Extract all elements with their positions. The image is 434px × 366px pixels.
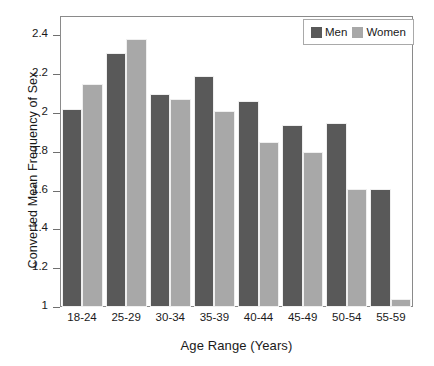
x-axis-title: Age Range (Years) bbox=[60, 338, 413, 353]
x-axis-label-55-59: 55-59 bbox=[369, 311, 413, 323]
bar-men-25-29 bbox=[106, 53, 127, 307]
x-axis-label-18-24: 18-24 bbox=[60, 311, 104, 323]
bar-women-50-54 bbox=[347, 189, 368, 307]
legend-label-men: Men bbox=[325, 26, 347, 38]
legend-entry-men: Men bbox=[311, 26, 347, 38]
bar-men-45-49 bbox=[282, 125, 303, 307]
bar-women-25-29 bbox=[126, 39, 147, 307]
y-axis-tick-mark bbox=[53, 74, 60, 75]
y-axis-tick-label: 1.4 bbox=[32, 221, 48, 233]
bar-women-30-34 bbox=[170, 99, 191, 307]
y-axis-tick-mark bbox=[53, 307, 60, 308]
y-axis-tick: 1 bbox=[0, 307, 60, 308]
x-axis-label-35-39: 35-39 bbox=[192, 311, 236, 323]
y-axis-tick-label: 1.6 bbox=[32, 183, 48, 195]
bar-women-55-59 bbox=[391, 299, 412, 307]
y-axis-tick-mark bbox=[53, 191, 60, 192]
bar-men-50-54 bbox=[326, 123, 347, 307]
y-axis-tick-label: 1.8 bbox=[32, 144, 48, 156]
bar-men-18-24 bbox=[62, 109, 83, 307]
legend-swatch-women-icon bbox=[352, 27, 363, 38]
x-axis-label-30-34: 30-34 bbox=[148, 311, 192, 323]
y-axis-tick: 1.4 bbox=[0, 229, 60, 230]
y-axis-tick-mark bbox=[53, 35, 60, 36]
y-axis-tick-mark bbox=[53, 229, 60, 230]
y-axis-tick: 1.2 bbox=[0, 268, 60, 269]
bar-women-18-24 bbox=[82, 84, 103, 307]
y-axis-tick: 1.8 bbox=[0, 152, 60, 153]
x-axis-label-25-29: 25-29 bbox=[104, 311, 148, 323]
y-axis-tick-label: 1.2 bbox=[32, 260, 48, 272]
legend-swatch-men-icon bbox=[311, 27, 322, 38]
y-axis-tick-mark bbox=[53, 268, 60, 269]
bar-men-35-39 bbox=[194, 76, 215, 307]
y-axis-tick-label: 2.2 bbox=[32, 66, 48, 78]
y-axis-title: Converted Mean Frequency of Sex bbox=[22, 20, 44, 320]
legend-entry-women: Women bbox=[352, 26, 405, 38]
bar-chart-figure: Converted Mean Frequency of Sex 11.21.41… bbox=[0, 0, 434, 366]
y-axis-tick-label: 1 bbox=[42, 299, 48, 311]
bar-women-40-44 bbox=[259, 142, 280, 307]
bar-men-55-59 bbox=[370, 189, 391, 307]
y-axis-tick-mark bbox=[53, 152, 60, 153]
bar-women-35-39 bbox=[214, 111, 235, 307]
chart-legend: Men Women bbox=[303, 19, 414, 45]
bar-men-40-44 bbox=[238, 101, 259, 307]
y-axis-tick: 1.6 bbox=[0, 191, 60, 192]
x-axis-label-40-44: 40-44 bbox=[237, 311, 281, 323]
legend-label-women: Women bbox=[366, 26, 405, 38]
bar-men-30-34 bbox=[150, 94, 171, 307]
y-axis-tick: 2.4 bbox=[0, 35, 60, 36]
x-axis-label-45-49: 45-49 bbox=[281, 311, 325, 323]
y-axis-tick: 2.2 bbox=[0, 74, 60, 75]
y-axis-tick-label: 2 bbox=[42, 105, 48, 117]
x-axis-label-50-54: 50-54 bbox=[325, 311, 369, 323]
y-axis-tick: 2 bbox=[0, 113, 60, 114]
y-axis-tick-mark bbox=[53, 113, 60, 114]
y-axis-tick-label: 2.4 bbox=[32, 27, 48, 39]
bar-women-45-49 bbox=[303, 152, 324, 307]
